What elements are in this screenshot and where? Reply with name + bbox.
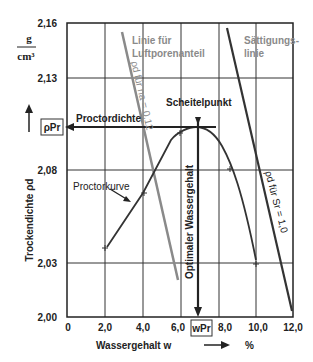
proctordichte-label: Proctordichte: [76, 113, 141, 124]
arrow-down-icon: [194, 307, 202, 317]
saettigung-label-2: linie: [244, 48, 264, 59]
x-tick: 10,0: [248, 322, 268, 333]
scheitel-arrow-icon: [195, 117, 201, 125]
unit-numerator: g: [26, 32, 32, 44]
w-pr-label: wPr: [191, 323, 210, 334]
luftporen-line: [122, 32, 178, 280]
x-axis-unit: %: [245, 340, 254, 351]
proctor-diagram: g cm³ 2,16 2,13 2,08 2,03 2,00 0 2,0 4,0…: [0, 0, 313, 362]
y-tick: 2,13: [38, 73, 58, 84]
y-tick: 2,08: [38, 165, 58, 176]
y-axis-label: Trockendichte ρd: [24, 179, 35, 262]
y-tick: 2,03: [38, 258, 58, 269]
x-tick: 4,0: [136, 322, 150, 333]
x-tick: 0: [65, 322, 71, 333]
optimal-water-label: Optimaler Wassergehalt: [184, 164, 195, 279]
x-tick: 8,0: [218, 322, 232, 333]
arrow-right-icon: [221, 341, 230, 349]
proctorkurve-label: Proctorkurve: [73, 181, 130, 192]
arrow-up-icon: [25, 104, 33, 113]
saettigung-label-1: Sättigungs-: [244, 35, 299, 46]
rho-pr-label: ρPr: [44, 122, 61, 133]
scheitelpunkt-label: Scheitelpunkt: [166, 97, 232, 108]
luftporen-label-2: Luftporenanteil: [132, 48, 205, 59]
y-tick: 2,16: [38, 18, 58, 29]
pointer-arrow-icon: [123, 196, 131, 202]
unit-denominator: cm³: [17, 50, 35, 62]
luftporen-label-1: Linie für: [132, 35, 172, 46]
x-axis-label: Wassergehalt w: [96, 340, 171, 351]
x-tick: 6,0: [171, 322, 185, 333]
x-tick: 12,0: [283, 322, 303, 333]
x-tick: 2,0: [98, 322, 112, 333]
y-tick: 2,00: [38, 312, 58, 323]
